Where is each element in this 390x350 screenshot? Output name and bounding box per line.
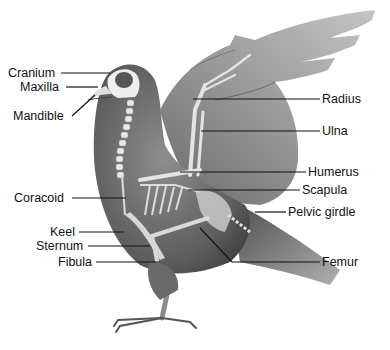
skull [88,69,139,100]
label-humerus: Humerus [308,165,359,179]
label-mandible: Mandible [13,109,64,123]
label-pelvic-girdle: Pelvic girdle [288,205,355,219]
label-sternum: Sternum [36,239,83,253]
foot [114,318,196,332]
label-scapula: Scapula [302,183,347,197]
label-cranium: Cranium [8,66,55,80]
label-ulna: Ulna [322,124,348,138]
label-coracoid: Coracoid [14,191,64,205]
label-radius: Radius [322,92,361,106]
label-keel: Keel [50,225,75,239]
label-femur: Femur [322,255,358,269]
label-maxilla: Maxilla [20,80,59,94]
label-fibula: Fibula [58,255,92,269]
